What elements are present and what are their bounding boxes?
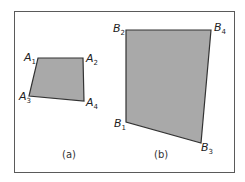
vertex-label-a2: A2 (85, 52, 98, 67)
quadrilateral-a (29, 58, 84, 101)
vertex-label-b3: B3 (201, 141, 213, 156)
vertex-label-a1: A1 (23, 51, 36, 66)
vertex-label-b2: B2 (113, 22, 125, 37)
figure-canvas: A1 A2 A3 A4 B1 B2 B3 B4 (a) (b) (0, 0, 245, 182)
vertex-label-a3: A3 (18, 90, 31, 105)
caption-a: (a) (62, 149, 76, 160)
caption-b: (b) (154, 149, 168, 160)
quadrilateral-b (126, 30, 211, 143)
vertex-label-b4: B4 (214, 21, 227, 36)
vertex-label-a4: A4 (85, 96, 99, 111)
vertex-label-b1: B1 (114, 117, 126, 132)
